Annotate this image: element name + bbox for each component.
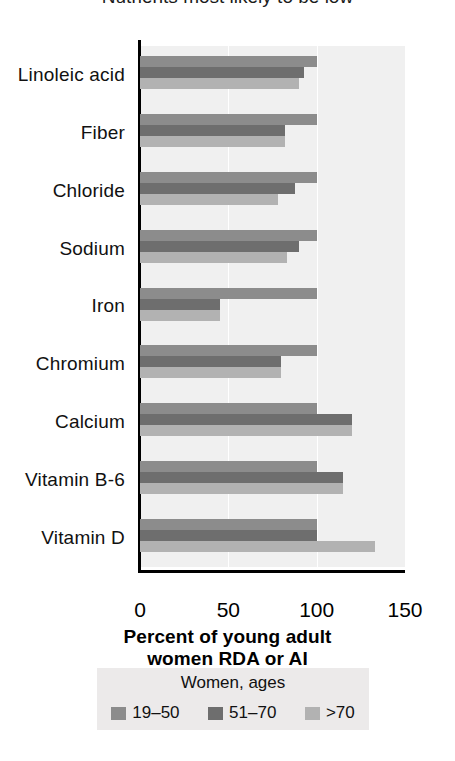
bar-1 (140, 183, 295, 194)
x-axis-title: Percent of young adult women RDA or AI (0, 626, 455, 669)
bar-2 (140, 310, 220, 321)
chart-legend: Women, ages 19–5051–70>70 (97, 668, 369, 730)
legend-swatch-icon (305, 707, 320, 720)
category-label: Fiber (81, 122, 125, 144)
legend-label: 51–70 (229, 703, 276, 723)
bar-2 (140, 136, 285, 147)
bar-0 (140, 519, 317, 530)
category-label: Vitamin B-6 (25, 469, 125, 491)
bar-group (140, 335, 405, 393)
bar-2 (140, 252, 287, 263)
category-label: Calcium (55, 411, 125, 433)
bar-1 (140, 67, 304, 78)
bar-0 (140, 56, 317, 67)
bar-2 (140, 541, 375, 552)
bar-2 (140, 483, 343, 494)
x-axis-title-line2: women RDA or AI (0, 648, 455, 670)
x-axis-line (138, 570, 405, 573)
legend-swatch-icon (208, 707, 223, 720)
bar-group (140, 278, 405, 336)
category-label: Sodium (59, 238, 125, 260)
legend-label: 19–50 (132, 703, 179, 723)
legend-swatch-icon (111, 707, 126, 720)
x-tick-label: 100 (299, 598, 334, 622)
bar-0 (140, 230, 317, 241)
x-tick-label: 50 (217, 598, 240, 622)
bar-row: Vitamin B-6 (0, 451, 455, 509)
x-tick-label: 150 (387, 598, 422, 622)
bar-1 (140, 125, 285, 136)
chart-title-text: Nutrients most likely to be low (102, 0, 353, 8)
category-label: Vitamin D (41, 527, 125, 549)
legend-item: >70 (305, 703, 355, 723)
bar-row: Iron (0, 278, 455, 336)
bar-0 (140, 345, 317, 356)
category-label: Iron (91, 295, 125, 317)
bar-0 (140, 172, 317, 183)
bar-1 (140, 414, 352, 425)
bar-0 (140, 403, 317, 414)
x-tick-label: 0 (134, 598, 146, 622)
bar-row: Fiber (0, 104, 455, 162)
bar-0 (140, 114, 317, 125)
bar-1 (140, 530, 317, 541)
legend-title: Women, ages (97, 673, 369, 693)
bar-1 (140, 241, 299, 252)
bar-group (140, 104, 405, 162)
bar-2 (140, 425, 352, 436)
bar-group (140, 162, 405, 220)
bar-row: Chromium (0, 335, 455, 393)
bar-2 (140, 367, 281, 378)
x-axis-tick-labels: 050100150 (0, 598, 455, 624)
category-label: Chloride (53, 180, 125, 202)
bar-row: Chloride (0, 162, 455, 220)
legend-item: 19–50 (111, 703, 179, 723)
bar-1 (140, 356, 281, 367)
chart-title-clipped: Nutrients most likely to be low (0, 0, 455, 13)
bar-row: Vitamin D (0, 509, 455, 567)
legend-item: 51–70 (208, 703, 276, 723)
bar-2 (140, 78, 299, 89)
bar-0 (140, 461, 317, 472)
bar-group (140, 46, 405, 104)
bar-group (140, 509, 405, 567)
bar-0 (140, 288, 317, 299)
category-label: Linoleic acid (18, 64, 125, 86)
bar-2 (140, 194, 278, 205)
x-axis-title-line1: Percent of young adult (0, 626, 455, 648)
bar-1 (140, 299, 220, 310)
legend-items: 19–5051–70>70 (97, 699, 369, 727)
bar-row: Sodium (0, 220, 455, 278)
bar-row: Calcium (0, 393, 455, 451)
bar-chart: Linoleic acidFiberChlorideSodiumIronChro… (0, 18, 455, 578)
bar-group (140, 393, 405, 451)
bar-group (140, 220, 405, 278)
category-label: Chromium (36, 353, 125, 375)
bar-row: Linoleic acid (0, 46, 455, 104)
bar-1 (140, 472, 343, 483)
legend-label: >70 (326, 703, 355, 723)
bar-group (140, 451, 405, 509)
